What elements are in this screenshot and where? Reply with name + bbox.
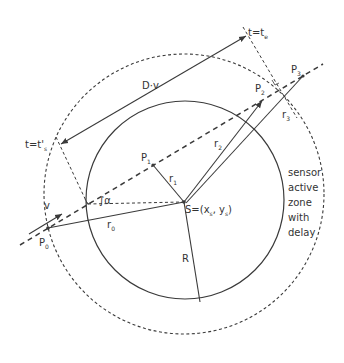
label-r0: r0: [107, 219, 115, 232]
label-ts: t=t's: [25, 139, 47, 152]
label-zone-line-2: active: [288, 182, 318, 193]
label-r2: r2: [214, 138, 222, 151]
label-r3: r3: [282, 109, 290, 122]
label-p1: P1: [141, 152, 151, 165]
label-dv: D·v: [142, 80, 159, 91]
label-zone-line-4: with: [288, 212, 309, 223]
velocity-arrow: [29, 214, 62, 234]
r2-line: [184, 101, 262, 202]
label-zone-line-1: sensor: [288, 167, 322, 178]
label-s-coordinates: S=(xs, ys): [185, 204, 232, 217]
sensor-trajectory-diagram: t=te t=t's D·v v ∫α P0 P1 P2 P3 r0 r1 r2…: [0, 0, 344, 363]
label-zone-line-3: zone: [288, 197, 312, 208]
R-line: [184, 202, 200, 302]
label-alpha: ∫α: [99, 195, 111, 206]
label-v: v: [44, 200, 50, 211]
label-te: t=te: [248, 27, 268, 40]
point-p3: [301, 74, 304, 77]
label-R: R: [182, 253, 189, 264]
point-p0: [46, 226, 50, 230]
label-p3: P3: [291, 64, 301, 77]
label-zone-line-5: delay: [288, 227, 315, 238]
te-perpendicular: [243, 27, 297, 118]
label-p0: P0: [39, 237, 49, 250]
label-p2: P2: [255, 83, 265, 96]
right-angle-mark-te: [272, 80, 279, 85]
trajectory-line: [20, 64, 323, 245]
point-p1: [151, 163, 154, 166]
r0-line: [48, 202, 184, 228]
label-r1: r1: [169, 173, 177, 186]
r3-line: [186, 76, 303, 203]
ts-perpendicular: [56, 137, 88, 205]
